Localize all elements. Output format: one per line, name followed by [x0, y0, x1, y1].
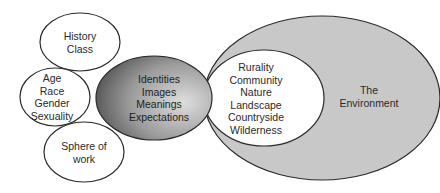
- rurality-label: Rurality Community Nature Landscape Coun…: [228, 61, 284, 136]
- label-line: Identities: [129, 73, 189, 86]
- label-line: Age: [31, 72, 74, 85]
- identities-label: Identities Images Meanings Expectations: [129, 73, 189, 123]
- label-line: Sphere of: [61, 140, 107, 153]
- age-race-label: Age Race Gender Sexuality: [31, 72, 74, 122]
- label-line: Landscape: [228, 98, 284, 111]
- label-line: work: [61, 152, 107, 165]
- label-line: Sexuality: [31, 110, 74, 123]
- label-line: Nature: [228, 86, 284, 99]
- label-line: Rurality: [228, 61, 284, 74]
- label-line: Expectations: [129, 111, 189, 124]
- label-line: The: [340, 84, 399, 97]
- environment-label: The Environment: [340, 84, 399, 109]
- label-line: Meanings: [129, 98, 189, 111]
- label-line: Class: [64, 42, 97, 55]
- sphere-work-label: Sphere of work: [61, 140, 107, 165]
- label-line: Community: [228, 73, 284, 86]
- label-line: Environment: [340, 96, 399, 109]
- label-line: History: [64, 30, 97, 43]
- history-class-label: History Class: [64, 30, 97, 55]
- label-line: Countryside: [228, 111, 284, 124]
- label-line: Images: [129, 86, 189, 99]
- label-line: Gender: [31, 97, 74, 110]
- label-line: Race: [31, 85, 74, 98]
- label-line: Wilderness: [228, 123, 284, 136]
